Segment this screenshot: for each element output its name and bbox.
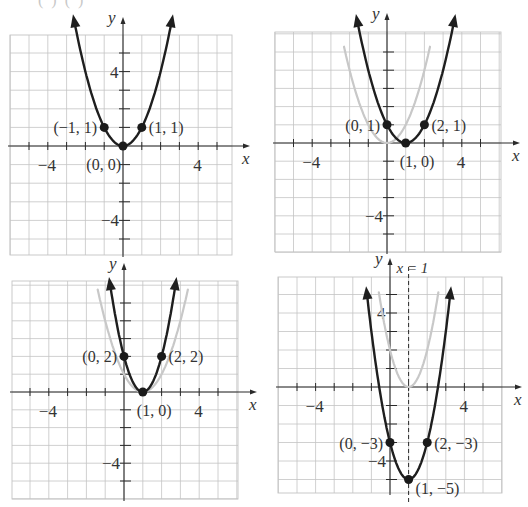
- plotted-point: [138, 388, 147, 397]
- plotted-point: [119, 142, 128, 151]
- x-axis-arrow-icon: [515, 385, 522, 390]
- curve-arrow-icon: [166, 14, 176, 28]
- curve-arrow-icon: [71, 14, 81, 28]
- x-tick-label: 4: [194, 402, 203, 421]
- y-axis-arrow-icon: [122, 263, 127, 270]
- y-tick-label: 4: [110, 63, 119, 82]
- y-axis-label: y: [373, 249, 383, 268]
- point-label: (0, 0): [86, 156, 121, 174]
- y-axis-label: y: [370, 4, 380, 23]
- curve-arrow-icon: [170, 277, 180, 291]
- point-label: (2, 1): [431, 117, 466, 135]
- plotted-point: [404, 475, 413, 484]
- point-label: (0, −3): [339, 435, 383, 453]
- plotted-point: [157, 352, 166, 361]
- point-label: (0, 1): [345, 117, 380, 135]
- plotted-point: [386, 438, 395, 447]
- curve-arrow-icon: [106, 277, 116, 291]
- y-tick-label: −4: [102, 454, 121, 473]
- plotted-point: [423, 438, 432, 447]
- x-tick-label: 4: [193, 156, 202, 175]
- panel-bottom-right: x = 1xy−444−4(0, −3)(2, −3)(1, −5): [276, 249, 522, 505]
- grid-border: [12, 281, 238, 499]
- point-label: (1, −5): [416, 480, 460, 498]
- point-label: (1, 0): [137, 402, 172, 420]
- panel-bottom-left: xy−44−4(0, 2)(2, 2)(1, 0): [10, 254, 257, 501]
- x-tick-label: 4: [459, 397, 468, 416]
- x-tick-label: −4: [39, 402, 58, 421]
- curve-arrow-icon: [354, 14, 364, 28]
- y-tick-label: −4: [365, 207, 384, 226]
- y-tick-label: −4: [368, 452, 387, 471]
- x-axis-arrow-icon: [243, 144, 250, 149]
- plotted-point: [137, 123, 146, 132]
- y-axis-arrow-icon: [121, 17, 126, 24]
- point-label: (2, −3): [434, 435, 478, 453]
- y-axis-label: y: [107, 254, 117, 273]
- x-tick-label: −4: [302, 153, 321, 172]
- plotted-point: [120, 352, 129, 361]
- x-axis-arrow-icon: [250, 390, 257, 395]
- point-label: (1, 1): [149, 119, 184, 137]
- parabola-transformations-figure: ( ) ( ) xy−444−4(−1, 1)(1, 1)(0, 0) xy−4…: [0, 0, 528, 507]
- x-tick-label: 4: [457, 153, 466, 172]
- x-axis-label: x: [513, 390, 522, 409]
- x-axis-label: x: [248, 395, 257, 414]
- x-tick-label: −4: [38, 156, 57, 175]
- cut-off-caption: ( ) ( ): [38, 0, 85, 9]
- y-tick-label: −4: [101, 211, 120, 230]
- graphs-canvas: xy−444−4(−1, 1)(1, 1)(0, 0) xy−44−4(0, 1…: [0, 0, 528, 507]
- x-axis-label: x: [241, 149, 250, 168]
- y-axis-label: y: [106, 8, 116, 27]
- x-axis-arrow-icon: [513, 141, 520, 146]
- point-label: (2, 2): [169, 348, 204, 366]
- point-label: (0, 2): [82, 348, 117, 366]
- x-tick-label: −4: [306, 397, 325, 416]
- grid: [12, 281, 238, 499]
- point-label: (−1, 1): [54, 119, 98, 137]
- panel-top-right: xy−44−4(0, 1)(2, 1)(1, 0): [273, 4, 520, 254]
- axis-of-symmetry-label: x = 1: [396, 260, 429, 276]
- y-axis-arrow-icon: [385, 13, 390, 20]
- point-label: (1, 0): [400, 153, 435, 171]
- plotted-point: [401, 139, 410, 148]
- panel-top-left: xy−444−4(−1, 1)(1, 1)(0, 0): [8, 8, 250, 257]
- y-axis-arrow-icon: [388, 258, 393, 265]
- plotted-point: [420, 120, 429, 129]
- x-axis-label: x: [511, 146, 520, 165]
- plotted-point: [383, 120, 392, 129]
- plotted-point: [100, 123, 109, 132]
- curve-arrow-icon: [448, 14, 458, 28]
